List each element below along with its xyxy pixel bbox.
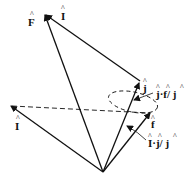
- svg-text:I·j/ j: I·j/ j: [148, 137, 169, 149]
- svg-text:j·f/ j: j·f/ j: [155, 88, 176, 100]
- svg-text:f: f: [151, 118, 155, 130]
- label-I-left: ^ I: [15, 114, 20, 132]
- label-I-dot-j-over-j: ^ ^ ^ I·j/ j: [148, 132, 177, 149]
- pointer-j-dot-f: [134, 93, 153, 100]
- vector-F: [45, 15, 103, 172]
- svg-text:j: j: [142, 82, 147, 94]
- svg-text:F: F: [28, 16, 35, 28]
- label-j: ^ j: [142, 77, 147, 94]
- svg-text:^: ^: [173, 132, 177, 141]
- svg-text:I: I: [61, 10, 65, 22]
- vector-I-top: [46, 15, 140, 81]
- svg-text:^: ^: [180, 83, 184, 92]
- label-f: ^ f: [151, 114, 155, 130]
- vector-I-left: [11, 106, 103, 172]
- label-F: ^ F: [28, 10, 35, 28]
- vector-f: [103, 113, 150, 172]
- svg-text:I: I: [15, 120, 19, 132]
- label-I-top: ^ I: [61, 4, 65, 22]
- label-j-dot-f-over-j: ^ ^ ^ j·f/ j: [155, 83, 184, 100]
- vector-diagram: ^ F ^ I ^ I ^ j ^ f ^ ^ ^ j·f/ j ^ ^ ^ I…: [0, 0, 194, 182]
